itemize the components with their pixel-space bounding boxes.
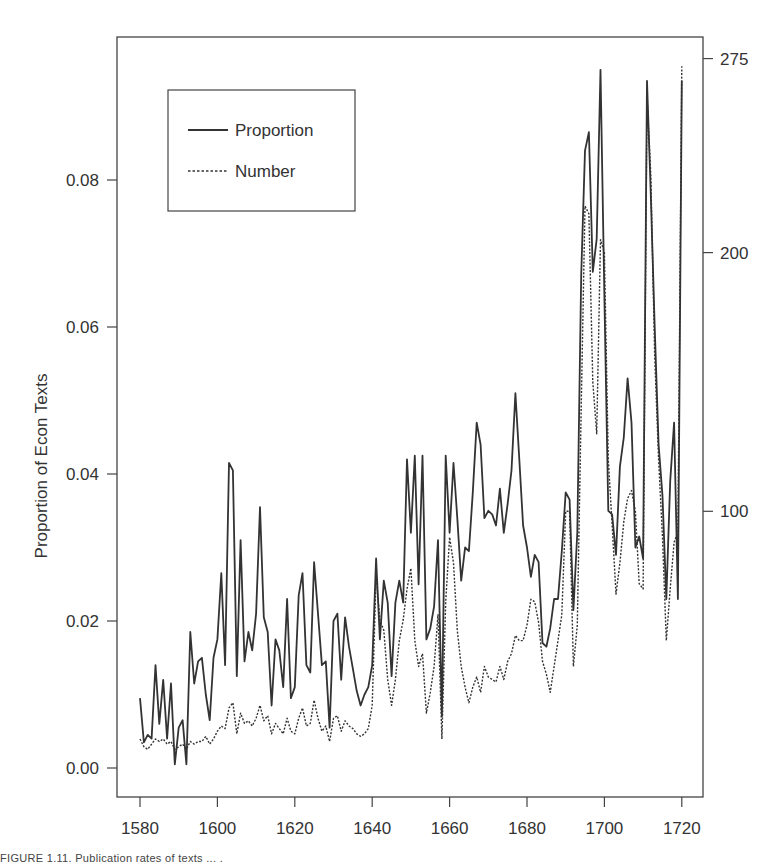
x-tick-label: 1660 bbox=[431, 819, 469, 838]
x-tick-label: 1680 bbox=[508, 819, 546, 838]
x-tick-label: 1640 bbox=[353, 819, 391, 838]
y-axis-left: 0.000.020.040.060.08 bbox=[66, 171, 117, 778]
x-tick-label: 1720 bbox=[663, 819, 701, 838]
y-tick-label: 0.08 bbox=[66, 171, 99, 190]
x-axis: 15801600162016401660168017001720 bbox=[121, 797, 701, 838]
y-tick-label: 0.00 bbox=[66, 759, 99, 778]
y-tick-label: 0.02 bbox=[66, 612, 99, 631]
x-tick-label: 1700 bbox=[585, 819, 623, 838]
x-tick-label: 1580 bbox=[121, 819, 159, 838]
legend-box bbox=[168, 90, 355, 211]
y-right-tick-label: 275 bbox=[720, 50, 748, 69]
y-right-tick-label: 200 bbox=[720, 244, 748, 263]
legend-proportion-label: Proportion bbox=[235, 121, 313, 140]
x-tick-label: 1620 bbox=[276, 819, 314, 838]
y-axis-right: 100200275 bbox=[703, 50, 748, 522]
y-right-tick-label: 100 bbox=[720, 502, 748, 521]
y-tick-label: 0.04 bbox=[66, 465, 99, 484]
legend: Proportion Number bbox=[168, 90, 355, 211]
y-tick-label: 0.06 bbox=[66, 318, 99, 337]
figure-caption: FIGURE 1.11. Publication rates of texts … bbox=[0, 852, 223, 864]
chart: 15801600162016401660168017001720 0.000.0… bbox=[0, 0, 783, 867]
x-tick-label: 1600 bbox=[198, 819, 236, 838]
legend-number-label: Number bbox=[235, 162, 296, 181]
y-axis-title: Proportion of Econ Texts bbox=[32, 374, 51, 559]
